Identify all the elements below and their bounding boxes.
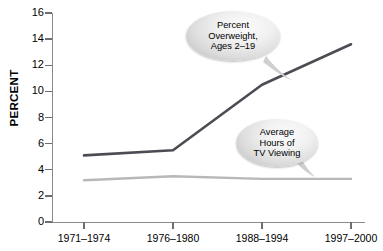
callout-line: TV Viewing — [254, 148, 301, 158]
callout-average-hours-tv-viewing: Average Hours of TV Viewing — [236, 119, 318, 167]
callout-line: Hours of — [254, 138, 301, 148]
callout-percent-overweight: Percent Overweight, Ages 2–19 — [186, 11, 280, 61]
line-chart: PERCENT 1614121086420 1971–19741976–1980… — [0, 0, 383, 251]
callout-line: Overweight, — [208, 31, 258, 41]
series-line-tv-viewing — [84, 176, 351, 180]
callout-line: Average — [254, 127, 301, 137]
callout-line: Percent — [208, 20, 258, 30]
callout-line: Ages 2–19 — [208, 41, 258, 51]
